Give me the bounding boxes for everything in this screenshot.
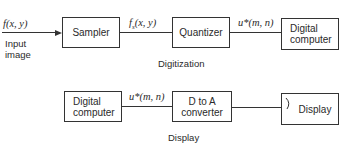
computer-label-line2: computer xyxy=(73,107,115,118)
input-arrow-line xyxy=(2,32,58,33)
input-label-line1: Input xyxy=(5,38,31,49)
digital-computer-block-bottom: Digital computer xyxy=(64,91,122,122)
quantizer-block: Quantizer xyxy=(172,17,230,48)
input-signal-label: f(x, y) xyxy=(3,19,27,29)
sampled-signal-label: fs(x, y) xyxy=(129,18,156,32)
digitization-caption: Digitization xyxy=(158,58,204,69)
digital-computer-block-top: Digital computer xyxy=(281,18,339,50)
arrow-head-icon xyxy=(55,30,62,36)
input-image-label: Input image xyxy=(5,38,31,60)
display-block: Display xyxy=(281,93,339,125)
display-label: Display xyxy=(299,104,332,115)
computer-label-line1: Digital xyxy=(73,96,115,107)
computer-label-line1: Digital xyxy=(290,23,332,34)
sampler-label: Sampler xyxy=(72,27,109,38)
input-label-line2: image xyxy=(5,49,31,60)
d-to-a-converter-block: D to A converter xyxy=(172,91,232,122)
display-screen-curve-icon xyxy=(284,96,294,112)
converter-to-display-line xyxy=(232,107,281,108)
sampler-block: Sampler xyxy=(62,17,120,48)
display-caption: Display xyxy=(168,132,199,143)
quantized-signal-label: u*(m, n) xyxy=(238,18,274,28)
display-signal-label: u*(m, n) xyxy=(129,92,165,102)
quantizer-label: Quantizer xyxy=(179,27,222,38)
converter-label-line1: D to A xyxy=(181,96,223,107)
quantizer-to-computer-line xyxy=(230,32,281,33)
sampler-to-quantizer-line xyxy=(120,32,172,33)
computer-to-converter-line xyxy=(122,106,172,107)
sampled-signal-rest: (x, y) xyxy=(135,17,157,28)
converter-label-line2: converter xyxy=(181,107,223,118)
computer-label-line2: computer xyxy=(290,34,332,45)
